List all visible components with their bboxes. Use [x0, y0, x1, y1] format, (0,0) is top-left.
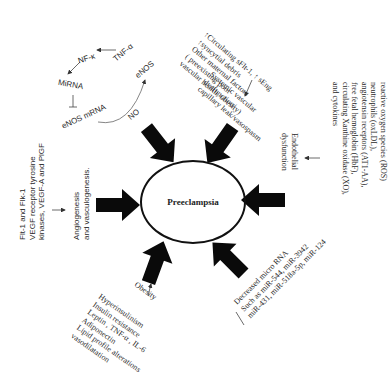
- center-label: Preeclampsia: [140, 160, 246, 244]
- left-factors: Flt-1 and Flk-1 VEGF receptor tyrosine k…: [18, 143, 47, 240]
- left-result: Angiogenesis and vasculogenesis.: [72, 168, 91, 241]
- arrow-left: [96, 189, 140, 221]
- right-result: Endothelial dysfunction: [280, 133, 299, 171]
- right-factors: reactive oxygen species (ROS) neutrophil…: [331, 82, 388, 195]
- arrow-right: [241, 184, 285, 216]
